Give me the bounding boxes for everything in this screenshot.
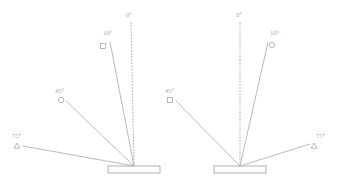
marker-triangle: [311, 143, 317, 148]
ray-10deg: [110, 42, 134, 166]
substrate-plate: [108, 166, 160, 173]
angle-label-45deg: 45°: [165, 88, 174, 95]
ray-10deg: [240, 42, 268, 166]
marker-triangle: [14, 143, 20, 148]
figure-canvas: 0°10°45°75°0°10°45°75°: [0, 0, 345, 183]
ray-45deg: [176, 101, 240, 166]
left-diagram: [14, 22, 160, 173]
ray-45deg: [66, 101, 134, 166]
ray-75deg: [240, 144, 310, 166]
angle-label-0deg: 0°: [126, 12, 132, 19]
marker-square: [167, 97, 172, 102]
angle-label-75deg: 75°: [12, 133, 21, 140]
marker-circle: [58, 97, 63, 102]
marker-circle: [269, 42, 274, 47]
angle-label-10deg: 10°: [103, 30, 112, 37]
ray-0deg: [131, 22, 134, 166]
substrate-plate: [214, 166, 266, 173]
ray-75deg: [23, 146, 134, 166]
right-diagram: [167, 22, 317, 173]
angle-label-75deg: 75°: [316, 133, 325, 140]
angle-label-45deg: 45°: [55, 88, 64, 95]
angle-label-10deg: 10°: [270, 30, 279, 37]
angle-label-0deg: 0°: [236, 12, 242, 19]
marker-square: [100, 43, 105, 48]
